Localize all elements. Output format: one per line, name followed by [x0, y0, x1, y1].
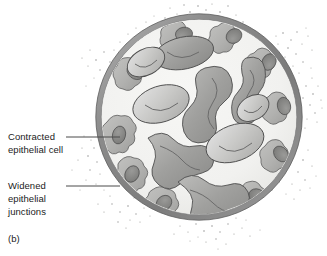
callout-label-contracted-epithelial-cell: Contracted epithelial cell [8, 130, 63, 156]
panel-label: (b) [8, 233, 20, 244]
particle-cluster-bottom [173, 217, 260, 249]
vessel-diagram [0, 0, 327, 256]
figure-panel: Contracted epithelial cell Widened epith… [0, 0, 327, 256]
callout-label-widened-epithelial-junctions: Widened epithelial junctions [8, 179, 46, 219]
